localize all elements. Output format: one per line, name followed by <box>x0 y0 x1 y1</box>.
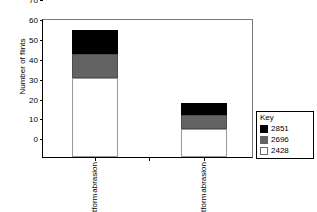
bar-segment-2428 <box>72 78 118 157</box>
legend-swatch-icon <box>260 125 268 133</box>
legend-swatch-icon <box>260 136 268 144</box>
legend-entry-2851: 2851 <box>260 123 311 134</box>
x-axis-label-1: Noplatformabrasion <box>64 162 124 208</box>
bar-segment-2696 <box>72 54 118 78</box>
y-axis-tick-label: 50 <box>29 36 40 45</box>
y-axis-tick-label: 60 <box>29 16 40 25</box>
legend-entries: 285126962428 <box>260 123 311 156</box>
plot-area: 010203040506070 <box>42 19 253 158</box>
x-axis-label-line: platform <box>90 194 99 212</box>
y-axis-tick: 10 <box>29 110 43 128</box>
bar-segment-2696 <box>181 115 227 129</box>
legend-title: Key <box>260 113 311 122</box>
x-axis-tick-mark <box>204 157 205 161</box>
y-axis-tick: 30 <box>29 70 43 88</box>
y-axis-tick: 20 <box>29 90 43 108</box>
legend-entry-2428: 2428 <box>260 145 311 156</box>
y-axis-tick: 50 <box>29 31 43 49</box>
x-axis-tick-mark <box>95 157 96 161</box>
y-axis-tick: 70 <box>29 0 43 9</box>
y-axis-tick-label: 70 <box>29 0 40 5</box>
legend-label: 2428 <box>271 146 289 155</box>
legend-entry-2696: 2696 <box>260 134 311 145</box>
y-axis-tick-mark <box>40 60 43 61</box>
legend-label: 2696 <box>271 135 289 144</box>
y-axis-title: Number of flints <box>18 7 27 127</box>
y-axis-tick-mark <box>40 139 43 140</box>
bar-2 <box>181 103 227 157</box>
y-axis-tick-mark <box>40 40 43 41</box>
y-axis-tick: 40 <box>29 51 43 69</box>
x-axis-label-line: Platform <box>199 194 208 212</box>
chart-figure: Number of flints 010203040506070 Noplatf… <box>0 0 317 212</box>
y-axis-tick-label: 30 <box>29 76 40 85</box>
y-axis-tick-label: 20 <box>29 96 40 105</box>
legend: Key 285126962428 <box>256 111 314 159</box>
y-axis-tick-mark <box>40 100 43 101</box>
y-axis-tick-mark <box>40 119 43 120</box>
bar-segment-2428 <box>181 129 227 157</box>
y-axis-tick: 0 <box>34 130 43 148</box>
y-axis-tick-mark <box>40 20 43 21</box>
y-axis-tick-mark <box>40 80 43 81</box>
y-axis-tick-mark <box>40 0 43 1</box>
bar-segment-2851 <box>72 30 118 54</box>
x-axis-label-line: abrasion <box>90 162 99 193</box>
y-axis-tick: 60 <box>29 11 43 29</box>
x-axis-tick-mark <box>149 157 150 161</box>
x-axis-label-line: abrasion <box>199 162 208 193</box>
bar-1 <box>72 30 118 157</box>
x-axis-label-2: Platformabrasion <box>173 162 233 208</box>
legend-label: 2851 <box>271 124 289 133</box>
legend-swatch-icon <box>260 147 268 155</box>
y-axis-tick-label: 10 <box>29 115 40 124</box>
bar-segment-2851 <box>181 103 227 115</box>
y-axis-tick-label: 40 <box>29 56 40 65</box>
